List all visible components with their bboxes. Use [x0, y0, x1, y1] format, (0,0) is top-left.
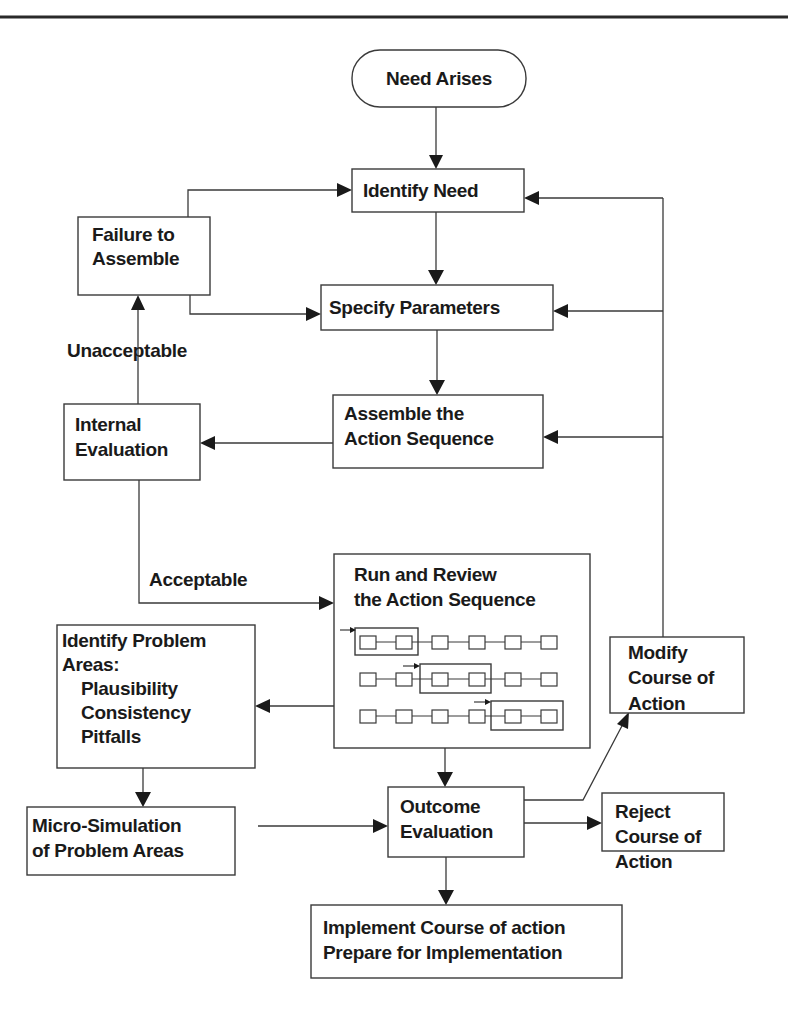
node-label: Assemble the — [344, 403, 464, 424]
node-label: Micro-Simulation — [32, 815, 181, 836]
node-label: Action — [628, 693, 685, 714]
arrow-left-icon — [553, 304, 568, 318]
arrow-left-icon — [255, 699, 270, 713]
node-label: Failure to — [92, 224, 175, 245]
node-label: Consistency — [81, 702, 191, 723]
node-label: Specify Parameters — [329, 297, 500, 318]
node-need-arises: Need Arises — [352, 50, 526, 107]
node-identify-problem-areas: Identify Problem Areas: Plausibility Con… — [57, 625, 255, 768]
node-label: Evaluation — [400, 821, 493, 842]
arrow-right-icon — [306, 307, 321, 321]
arrow-right-icon — [337, 183, 352, 197]
arrow-down-icon — [428, 270, 444, 285]
node-label: Plausibility — [81, 678, 178, 699]
arrow-left-icon — [524, 191, 539, 205]
decision-process-flowchart: Need Arises Identify Need Failure to Ass… — [0, 0, 788, 1025]
node-label: Outcome — [400, 796, 480, 817]
arrow-right-icon — [319, 596, 334, 610]
node-label: Course of — [615, 826, 702, 847]
node-micro-simulation: Micro-Simulation of Problem Areas — [27, 807, 235, 875]
node-label: Action — [615, 851, 672, 872]
arrow-down-icon — [438, 890, 454, 905]
node-reject-course: Reject Course of Action — [602, 793, 724, 872]
edge-label-unacceptable: Unacceptable — [67, 340, 187, 361]
node-label: Modify — [628, 642, 688, 663]
node-run-review: Run and Review the Action Sequence — [334, 554, 590, 748]
node-label: Prepare for Implementation — [323, 942, 562, 963]
node-label: Reject — [615, 801, 671, 822]
node-label: Need Arises — [386, 68, 492, 89]
node-label: Pitfalls — [81, 726, 141, 747]
arrow-left-icon — [200, 436, 215, 450]
node-label: Implement Course of action — [323, 917, 565, 938]
node-label: Action Sequence — [344, 428, 494, 449]
node-specify-parameters: Specify Parameters — [321, 285, 553, 330]
node-outcome-evaluation: Outcome Evaluation — [388, 787, 524, 857]
arrow-down-icon — [135, 792, 151, 807]
node-implement: Implement Course of action Prepare for I… — [311, 905, 622, 978]
connectors — [131, 107, 663, 905]
node-modify-course: Modify Course of Action — [610, 637, 744, 714]
arrow-left-icon — [543, 430, 558, 444]
node-internal-evaluation: Internal Evaluation — [64, 404, 200, 480]
arrow-right-icon — [373, 819, 388, 833]
node-label: of Problem Areas — [32, 840, 184, 861]
node-label: Evaluation — [75, 439, 168, 460]
arrow-right-icon — [587, 816, 602, 830]
arrow-diagonal-icon — [617, 712, 629, 729]
node-label: Run and Review — [354, 564, 497, 585]
node-label: Course of — [628, 667, 715, 688]
node-identify-need: Identify Need — [352, 169, 524, 212]
node-label: the Action Sequence — [354, 589, 536, 610]
node-label: Assemble — [92, 248, 179, 269]
node-label: Identify Problem — [62, 630, 206, 651]
arrow-down-icon — [429, 380, 445, 395]
node-label: Areas: — [62, 654, 119, 675]
node-label: Internal — [75, 414, 141, 435]
node-label: Identify Need — [363, 180, 478, 201]
arrow-up-icon — [131, 295, 145, 310]
node-assemble-action-sequence: Assemble the Action Sequence — [333, 395, 543, 468]
arrow-down-icon — [437, 772, 453, 787]
edge-label-acceptable: Acceptable — [149, 569, 247, 590]
arrow-down-icon — [429, 155, 443, 169]
node-failure-to-assemble: Failure to Assemble — [78, 217, 210, 295]
